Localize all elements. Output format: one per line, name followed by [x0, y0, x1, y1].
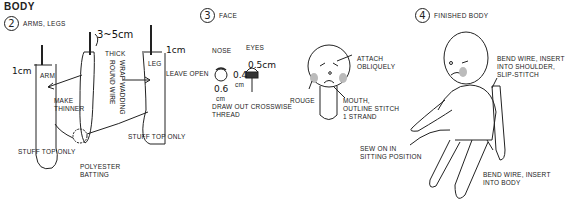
nose-label: NOSE	[212, 47, 231, 55]
batting-label-1: POLYESTER	[80, 163, 120, 171]
wrapped-wire-drawing	[80, 32, 98, 143]
page-title: BODY	[4, 1, 35, 12]
step-number: 2	[4, 16, 19, 31]
attach-label-1: ATTACH	[357, 55, 383, 63]
mouth-label-2: OUTLINE STITCH	[343, 105, 399, 113]
mouth-label-3: 1 STRAND	[343, 113, 377, 121]
step-4-heading: 4 FINISHED BODY	[415, 8, 488, 23]
leave-open-label: LEAVE OPEN	[166, 70, 209, 78]
step-label: ARMS, LEGS	[23, 20, 66, 27]
eyes-label: EYES	[246, 44, 264, 52]
shoulder-label-3: SLIP-STITCH	[497, 71, 539, 79]
stuff-top-only-right: STUFF TOP ONLY	[128, 133, 186, 141]
insert-body-label-2: INTO BODY	[483, 179, 520, 187]
wrap-wadding-label: WRAP WADDING	[118, 60, 126, 115]
arm-measure: 1cm	[12, 66, 31, 76]
draw-out-label-1: DRAW OUT CROSSWISE	[212, 103, 292, 111]
mouth-label-1: MOUTH,	[343, 97, 370, 105]
thick-label: THICK	[105, 50, 126, 58]
make-thinner-label-2: THINNER	[54, 105, 84, 113]
insert-body-label-1: BEND WIRE, INSERT	[483, 171, 551, 179]
arm-label: ARM	[40, 72, 55, 80]
draw-out-label-2: THREAD	[212, 111, 240, 119]
step-3-heading: 3 FACE	[200, 8, 237, 23]
stuff-top-only-left: STUFF TOP ONLY	[18, 148, 76, 156]
step-label: FINISHED BODY	[434, 12, 488, 19]
eye-height-unit: cm	[235, 81, 244, 89]
eye-width-measure: 0.5cm	[248, 60, 276, 70]
shoulder-label-2: INTO SHOULDER,	[497, 63, 555, 71]
shoulder-label-1: BEND WIRE, INSERT	[497, 55, 565, 63]
step-number: 4	[415, 8, 430, 23]
step-number: 3	[200, 8, 215, 23]
leg-drawing	[142, 25, 165, 144]
make-thinner-label-1: MAKE	[54, 97, 73, 105]
step-2-heading: 2 ARMS, LEGS	[4, 16, 66, 31]
leg-measure: 1cm	[166, 45, 185, 55]
rouge-label: ROUGE	[290, 97, 315, 105]
attach-label-2: OBLIQUELY	[357, 63, 395, 71]
eye-height-measure: 0.4	[233, 70, 247, 80]
batting-label-2: BATTING	[80, 171, 109, 179]
sew-on-label-2: SITTING POSITION	[360, 153, 422, 161]
wire-measure: 3~5cm	[97, 29, 133, 40]
leg-label: LEG	[148, 60, 162, 68]
step-label: FACE	[219, 12, 237, 19]
nose-measure-unit: cm	[216, 95, 225, 103]
round-wire-label: ROUND WIRE	[108, 60, 116, 105]
sew-on-label-1: SEW ON IN	[360, 145, 396, 153]
nose-measure: 0.6	[214, 84, 228, 94]
